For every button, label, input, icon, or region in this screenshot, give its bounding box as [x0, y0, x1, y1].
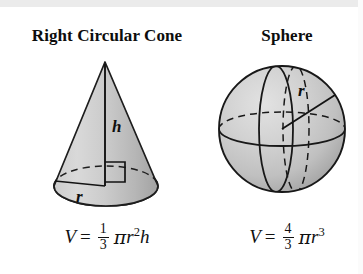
sphere-title: Sphere — [214, 26, 360, 46]
scan-band-top — [0, 0, 363, 7]
geometry-formula-figure: Right Circular Cone Sphere — [0, 0, 363, 274]
sphere-formula-equals: = — [265, 226, 276, 248]
cone-volume-formula: V = 1 3 π r 2 h — [0, 222, 214, 252]
sphere-formula-radius-var: r — [311, 226, 318, 248]
cone-fraction-denominator: 3 — [98, 237, 109, 253]
sphere-formula-fraction: 4 3 — [283, 222, 294, 252]
cone-diagram: h r — [36, 52, 176, 212]
cone-formula-lhs: V — [65, 226, 77, 248]
cone-formula-pi: π — [114, 226, 127, 248]
cone-formula-height-var: h — [140, 226, 150, 248]
cone-formula-radius-var: r — [126, 226, 133, 248]
sphere-formula-pi: π — [299, 226, 312, 248]
sphere-fraction-numerator: 4 — [283, 222, 294, 237]
cone-formula-fraction: 1 3 — [98, 222, 109, 252]
cone-title: Right Circular Cone — [0, 26, 214, 46]
sphere-fraction-denominator: 3 — [283, 237, 294, 253]
cone-body — [54, 62, 158, 206]
sphere-volume-formula: V = 4 3 π r 3 — [214, 222, 360, 252]
sphere-diagram: r — [212, 52, 356, 208]
sphere-radius-label: r — [298, 81, 305, 100]
cone-fraction-numerator: 1 — [98, 222, 109, 237]
cone-formula-equals: = — [80, 226, 91, 248]
cone-height-label: h — [112, 117, 121, 136]
sphere-formula-lhs: V — [249, 226, 261, 248]
cone-radius-label: r — [76, 187, 83, 206]
